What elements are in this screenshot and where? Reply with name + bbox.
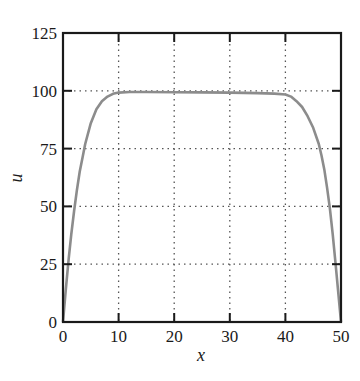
x-tick-label: 40 xyxy=(277,327,294,346)
y-tick-label: 50 xyxy=(40,197,57,216)
x-tick-label: 50 xyxy=(333,327,350,346)
plot-frame xyxy=(63,33,341,322)
grid-lines xyxy=(63,33,341,322)
x-tick-labels: 01020304050 xyxy=(59,327,350,346)
y-axis-label: u xyxy=(6,174,26,183)
x-tick-label: 10 xyxy=(110,327,127,346)
y-tick-label: 100 xyxy=(32,82,58,101)
y-tick-label: 75 xyxy=(40,140,57,159)
x-tick-label: 0 xyxy=(59,327,68,346)
y-tick-label: 25 xyxy=(40,255,57,274)
x-axis-label: x xyxy=(196,345,205,365)
chart: 01020304050 0255075100125 x u xyxy=(0,0,360,381)
x-tick-label: 30 xyxy=(221,327,238,346)
y-tick-label: 125 xyxy=(32,24,58,43)
y-tick-label: 0 xyxy=(49,313,58,332)
axis-ticks xyxy=(63,33,341,322)
x-tick-label: 20 xyxy=(166,327,183,346)
y-tick-labels: 0255075100125 xyxy=(32,24,58,332)
